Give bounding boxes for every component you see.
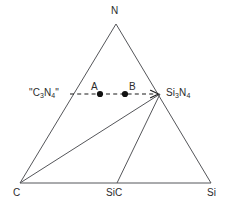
diagram-canvas (0, 0, 231, 205)
point-b-marker (122, 91, 128, 97)
compound-label-si3n4: Si3N4 (166, 88, 190, 98)
ternary-triangle (20, 24, 211, 183)
ternary-phase-diagram: N C SiC Si "C3N4" Si3N4 A B (0, 0, 231, 205)
point-label-a: A (91, 82, 98, 92)
tie-lines (20, 94, 160, 183)
triangle-outline (20, 24, 211, 183)
compound-label-c3n4: "C3N4" (29, 88, 59, 98)
compound-label-sic: SiC (106, 188, 122, 198)
vertex-label-c: C (13, 188, 20, 198)
reaction-path-arrow (70, 90, 159, 98)
vertex-label-si: Si (207, 188, 216, 198)
point-label-b: B (129, 82, 136, 92)
vertex-label-n: N (111, 6, 118, 16)
composition-points (97, 91, 128, 97)
